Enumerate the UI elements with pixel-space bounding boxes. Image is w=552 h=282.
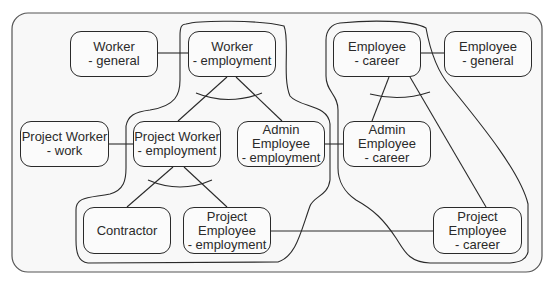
node-label: Project Worker - employment xyxy=(134,130,220,158)
node-label: Contractor xyxy=(97,224,158,238)
node-worker-general: Worker - general xyxy=(70,31,158,77)
node-label: Project Worker - work xyxy=(22,130,108,158)
node-admin-employee-career: Admin Employee - career xyxy=(343,121,431,167)
node-label: Worker - general xyxy=(88,40,139,68)
node-employee-career: Employee - career xyxy=(333,31,421,77)
node-worker-employment: Worker - employment xyxy=(188,31,276,77)
node-project-employee-career: Project Employee - career xyxy=(433,207,522,254)
node-project-employee-employment: Project Employee - employment xyxy=(183,207,271,254)
node-label: Employee - career xyxy=(348,40,406,68)
node-project-worker-employment: Project Worker - employment xyxy=(133,121,221,167)
node-label: Employee - general xyxy=(459,40,517,68)
node-label: Admin Employee - employment xyxy=(242,123,321,165)
node-contractor: Contractor xyxy=(83,207,171,254)
node-project-worker-work: Project Worker - work xyxy=(20,121,109,167)
node-label: Admin Employee - career xyxy=(358,123,416,165)
node-label: Worker - employment xyxy=(193,40,272,68)
node-label: Project Employee - employment xyxy=(188,210,267,252)
node-admin-employee-employment: Admin Employee - employment xyxy=(237,121,325,167)
node-label: Project Employee - career xyxy=(449,210,507,252)
node-employee-general: Employee - general xyxy=(444,31,532,77)
